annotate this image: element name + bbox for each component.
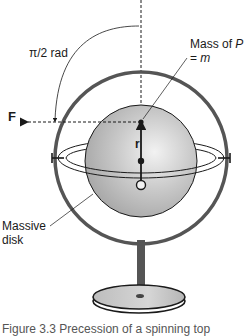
disk-leader-line	[50, 194, 93, 226]
center-point	[138, 158, 144, 164]
mass-label-prefix: Mass of	[190, 37, 235, 51]
point-P	[138, 119, 143, 124]
force-label: F	[8, 110, 16, 124]
figure-caption: Figure 3.3 Precession of a spinning top	[2, 323, 210, 336]
pole-foot	[136, 294, 144, 298]
mass-eq-var: m	[200, 51, 210, 65]
mass-leader-line	[143, 58, 187, 119]
mass-eq-prefix: =	[190, 51, 200, 65]
radius-label: r	[135, 138, 140, 151]
disk-label-line1: Massive	[2, 219, 46, 233]
angle-label: π/2 rad	[29, 47, 68, 60]
mass-label-var: P	[235, 37, 243, 51]
massive-disk-label: Massive disk	[2, 219, 46, 247]
pivot-point	[137, 181, 146, 190]
disk-label-line2: disk	[2, 233, 23, 247]
mass-label: Mass of P = m	[190, 37, 243, 65]
